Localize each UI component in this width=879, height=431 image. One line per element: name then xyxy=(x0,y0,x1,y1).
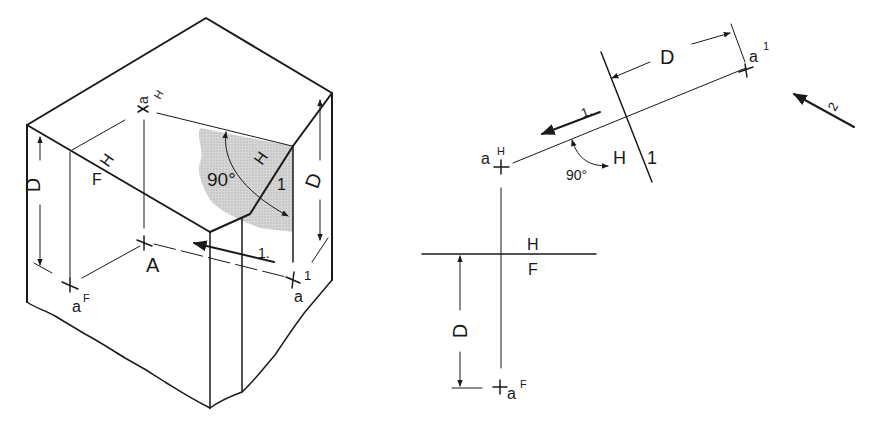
angle-label: 90° xyxy=(207,169,236,190)
point-a1-marker xyxy=(286,272,300,288)
fold-F-label: F xyxy=(92,171,102,188)
point-aF-marker xyxy=(62,278,78,292)
point-aF-right-sup: F xyxy=(520,378,527,390)
point-a1-right-label: a xyxy=(749,48,758,65)
fold-H1-H-label: H xyxy=(613,148,626,168)
angle-arc-right xyxy=(572,140,608,166)
top-face-outline xyxy=(27,18,332,146)
descriptive-geometry-figure: D D 90° H 1 H F a H A a xyxy=(0,0,879,431)
top-left-edge xyxy=(27,125,210,232)
point-A-label: A xyxy=(146,254,160,276)
point-aH-right-label: a xyxy=(481,150,490,167)
angle-right-label: 90° xyxy=(566,167,587,183)
point-aH-label: a xyxy=(135,96,151,104)
dim-top-ext xyxy=(731,24,745,62)
point-aH-marker-right xyxy=(494,160,509,174)
sight-arrow-1-label: 1. xyxy=(258,245,270,261)
point-aH-sup: H xyxy=(151,88,165,101)
dim-top-line-left xyxy=(612,62,650,78)
point-aF-label: a xyxy=(72,298,81,315)
pictorial-block: D D 90° H 1 H F a H A a xyxy=(22,18,332,408)
projector-aH-edge xyxy=(72,120,125,150)
fold-1-label: 1 xyxy=(277,176,286,193)
fold-HF-H-label: H xyxy=(527,236,539,253)
point-A-marker xyxy=(137,236,152,250)
point-a1-sup: 1 xyxy=(304,268,311,283)
dim-right-label: D xyxy=(301,170,327,191)
dim-right-ext xyxy=(312,238,328,262)
point-a1-label: a xyxy=(294,288,303,305)
sight-arrow-2 xyxy=(794,94,854,127)
orthographic-view: H F H 1 a H a 1 a F 90° xyxy=(422,24,854,402)
point-aF-marker-right xyxy=(493,380,507,394)
broken-bottom-right xyxy=(210,280,332,408)
fold-H1-1-label: 1 xyxy=(647,148,657,168)
dim-left-label: D xyxy=(22,178,44,192)
dim-top-label: D xyxy=(660,46,674,68)
point-a1-right-sup: 1 xyxy=(763,40,769,52)
fold-HF-F-label: F xyxy=(528,261,538,278)
point-a1-marker-right xyxy=(739,64,753,77)
projector-aH-a1 xyxy=(513,68,746,163)
dim-left-ext xyxy=(34,263,52,273)
projector-A-to-aF xyxy=(82,246,140,278)
point-aH-right-sup: H xyxy=(497,145,505,157)
point-aF-right-label: a xyxy=(507,385,516,402)
dim-bottom-label: D xyxy=(449,324,471,338)
point-aH-marker xyxy=(138,106,148,112)
point-aF-sup: F xyxy=(83,292,90,304)
dim-top-line-right xyxy=(692,33,730,44)
broken-bottom-left xyxy=(27,302,210,408)
